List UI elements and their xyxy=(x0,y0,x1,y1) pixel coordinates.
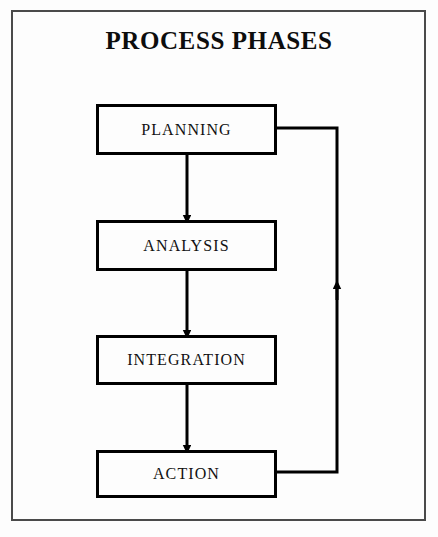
process-node-planning[interactable]: PLANNING xyxy=(96,104,277,155)
diagram-canvas: PROCESS PHASES PLANNING ANALYSIS INTEGRA… xyxy=(0,0,438,537)
process-node-action[interactable]: ACTION xyxy=(96,450,277,498)
process-node-label: INTEGRATION xyxy=(127,351,246,369)
process-node-analysis[interactable]: ANALYSIS xyxy=(96,220,277,271)
process-node-label: PLANNING xyxy=(141,121,232,139)
process-node-label: ACTION xyxy=(153,465,220,483)
process-node-label: ANALYSIS xyxy=(143,237,229,255)
page-title: PROCESS PHASES xyxy=(0,26,438,56)
process-node-integration[interactable]: INTEGRATION xyxy=(96,335,277,385)
